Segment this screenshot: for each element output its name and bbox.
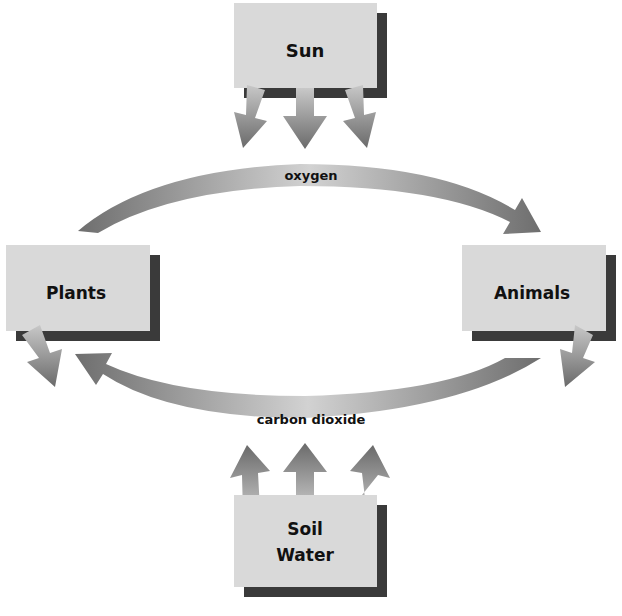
- arrow-down-left-icon: [234, 85, 267, 148]
- oxygen-label: oxygen: [284, 168, 337, 183]
- cycle-diagram: Sun oxygen Plants Animals carbon dioxide: [0, 0, 622, 616]
- carbon-dioxide-arrow: carbon dioxide: [75, 353, 541, 427]
- animals-label: Animals: [494, 283, 570, 303]
- soil-label: Soil: [287, 519, 323, 539]
- soil-water-node: Soil Water: [234, 495, 387, 597]
- soil-water-box: [234, 495, 377, 587]
- sun-energy-arrows: [234, 85, 376, 149]
- plants-label: Plants: [46, 283, 106, 303]
- sun-node: Sun: [234, 3, 387, 98]
- animals-node: Animals: [462, 245, 616, 341]
- sun-label: Sun: [286, 40, 325, 61]
- plants-node: Plants: [6, 245, 160, 341]
- carbon-dioxide-label: carbon dioxide: [257, 412, 366, 427]
- water-label: Water: [276, 545, 334, 565]
- oxygen-arrow: oxygen: [78, 164, 541, 234]
